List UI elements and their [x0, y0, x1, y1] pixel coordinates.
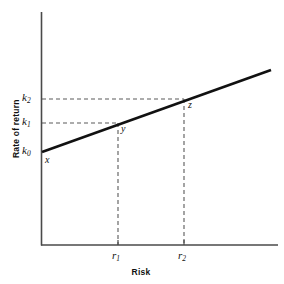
y-tick-label-k0-sub: 0 [27, 149, 31, 158]
data-point-label-y: y [121, 124, 125, 134]
data-point-label-x: x [45, 155, 49, 165]
y-tick-label-k1: k1 [22, 116, 31, 127]
y-tick-label-k2-sub: 2 [27, 96, 31, 105]
x-tick-label-r2: r2 [178, 250, 186, 261]
y-axis-title: Rate of return [11, 99, 21, 158]
y-tick-label-k2: k2 [22, 92, 31, 103]
x-tick-label-r1-sub: 1 [116, 254, 120, 263]
x-axis-title: Risk [132, 267, 151, 277]
risk-return-chart: k2 k1 k0 r1 r2 x y z Rate of return Risk [0, 0, 284, 284]
data-point-label-z: z [188, 100, 192, 110]
chart-canvas [0, 0, 284, 284]
y-tick-label-k1-sub: 1 [27, 120, 31, 129]
x-tick-label-r1: r1 [112, 250, 120, 261]
x-tick-label-r2-sub: 2 [182, 254, 186, 263]
y-tick-label-k0: k0 [22, 145, 31, 156]
risk-return-trend-line [42, 70, 271, 152]
